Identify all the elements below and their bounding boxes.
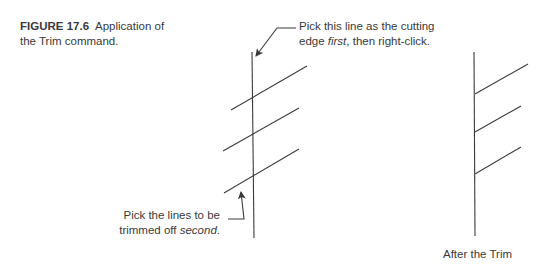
after-trimmed-line-2 bbox=[475, 106, 521, 132]
after-trimmed-line-1 bbox=[475, 64, 528, 94]
trim-line-1 bbox=[231, 66, 307, 110]
cutting-edge-line bbox=[252, 52, 254, 238]
arrow-leader-bottom bbox=[228, 192, 244, 219]
after-cutting-edge-line bbox=[474, 52, 475, 236]
trim-line-3 bbox=[224, 149, 299, 193]
after-trimmed-line-3 bbox=[475, 147, 521, 174]
trim-diagram bbox=[0, 0, 548, 271]
trim-line-2 bbox=[223, 108, 299, 151]
arrow-leader-top bbox=[256, 28, 296, 56]
